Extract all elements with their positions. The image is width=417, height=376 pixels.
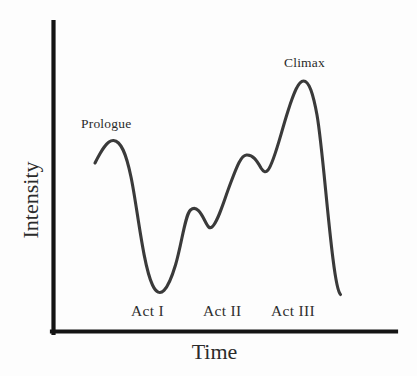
y-axis-title: Intensity <box>20 130 46 270</box>
narrative-intensity-figure: Prologue Climax Act I Act II Act III Tim… <box>0 0 417 376</box>
act-label-2: Act II <box>203 303 241 319</box>
intensity-curve <box>95 81 341 295</box>
act-label-3: Act III <box>271 303 315 319</box>
plot-area <box>0 0 417 376</box>
curve-label-prologue: Prologue <box>81 117 131 131</box>
act-label-1: Act I <box>131 303 164 319</box>
curve-label-climax: Climax <box>284 56 325 70</box>
x-axis-title-text: Time <box>192 341 238 363</box>
x-axis-title: Time <box>0 341 417 363</box>
